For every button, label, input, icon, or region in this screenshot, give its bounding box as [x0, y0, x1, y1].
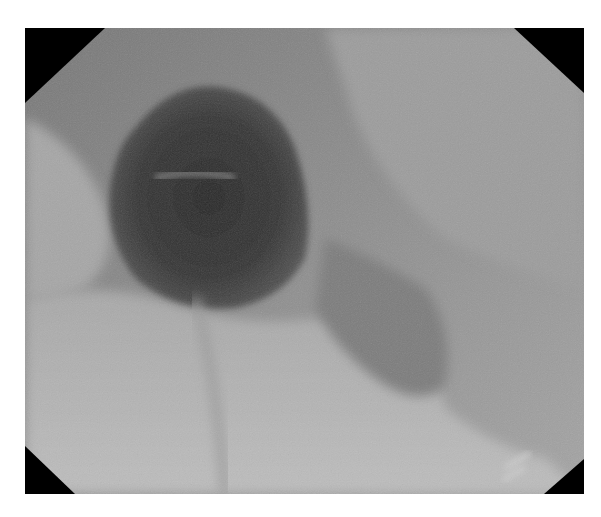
image-noise	[25, 28, 584, 494]
endoscopy-image	[25, 28, 584, 494]
endoscopy-scene	[25, 28, 584, 494]
